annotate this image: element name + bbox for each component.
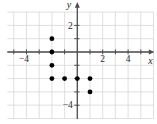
y-axis-label: y [66, 0, 72, 10]
data-point [50, 36, 55, 41]
data-point [88, 90, 93, 95]
x-axis-tick-label: 4 [126, 54, 131, 64]
data-point [62, 76, 67, 81]
y-axis-arrowhead [75, 2, 80, 8]
x-axis-tick-label: 2 [100, 54, 105, 64]
data-point [75, 76, 80, 81]
data-point [88, 76, 93, 81]
data-point [50, 63, 55, 68]
scatter-plot-figure: −4242−4xy [0, 0, 157, 124]
coordinate-plane: −4242−4xy [0, 0, 157, 124]
data-point [50, 76, 55, 81]
x-axis-tick-label: −4 [19, 54, 29, 64]
x-axis-label: x [147, 55, 153, 66]
data-point [50, 50, 55, 55]
y-axis-tick-label: 2 [68, 21, 73, 31]
y-axis-tick-label: −4 [63, 100, 73, 110]
